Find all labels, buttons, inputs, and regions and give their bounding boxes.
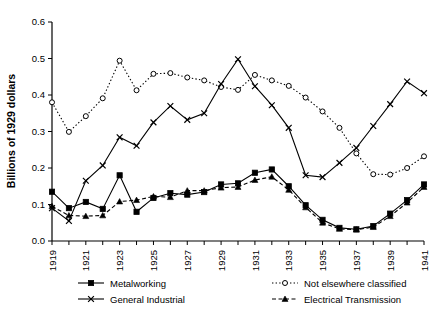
data-point-marker [235,181,240,186]
x-tick-label: 1921 [80,250,91,271]
data-point-marker [100,206,105,211]
data-point-marker [421,182,426,187]
data-point-marker [354,151,359,156]
line-chart: Billions of 1929 dollars 0.00.10.20.30.4… [0,0,437,315]
data-point-marker [388,172,393,177]
x-tick-label: 1919 [47,250,58,271]
data-point-marker [286,83,291,88]
data-point-marker [236,87,241,92]
data-point-marker [83,114,88,119]
data-point-marker [422,154,427,159]
data-point-marker [337,225,342,230]
data-point-marker [286,184,291,189]
data-point-marker [151,71,156,76]
x-tick-label: 1935 [317,250,328,271]
data-point-marker [371,223,376,228]
data-point-marker [337,125,342,130]
y-tick-label: 0.6 [32,16,45,27]
data-point-marker [134,209,139,214]
data-point-marker [269,167,274,172]
legend-label: General Industrial [110,294,185,305]
data-point-marker [66,206,71,211]
data-point-marker [269,78,274,83]
data-point-marker [151,195,156,200]
data-point-marker [218,182,223,187]
data-point-marker [354,227,359,232]
data-point-marker [50,100,55,105]
x-tick-label: 1939 [385,250,396,271]
data-point-marker [303,203,308,208]
data-point-marker [168,71,173,76]
data-point-marker [88,280,93,285]
legend-label: Metalworking [110,278,166,289]
legend-label: Electrical Transmission [304,294,401,305]
data-point-marker [134,88,139,93]
y-tick-label: 0.3 [32,126,45,137]
data-point-marker [117,173,122,178]
data-point-marker [49,189,54,194]
data-point-marker [404,198,409,203]
data-point-marker [100,96,105,101]
data-point-marker [405,166,410,171]
data-point-marker [303,95,308,100]
data-point-marker [320,217,325,222]
y-tick-label: 0.4 [32,89,45,100]
y-tick-label: 0.2 [32,162,45,173]
data-point-marker [117,58,122,63]
data-point-marker [168,191,173,196]
chart-container: Billions of 1929 dollars 0.00.10.20.30.4… [0,0,437,315]
x-tick-label: 1929 [216,250,227,271]
data-point-marker [83,199,88,204]
data-point-marker [388,211,393,216]
x-tick-label: 1927 [182,250,193,271]
data-point-marker [185,75,190,80]
legend-label: Not elsewhere classified [304,278,406,289]
data-point-marker [252,72,257,77]
x-tick-label: 1941 [419,250,430,271]
data-point-marker [320,109,325,114]
data-point-marker [185,192,190,197]
y-axis-title: Billions of 1929 dollars [5,74,17,189]
x-tick-label: 1923 [114,250,125,271]
data-point-marker [202,78,207,83]
y-tick-label: 0.1 [32,199,45,210]
data-point-marker [66,129,71,134]
x-tick-label: 1937 [351,250,362,271]
data-point-marker [202,189,207,194]
x-tick-label: 1933 [283,250,294,271]
x-tick-label: 1931 [250,250,261,271]
data-point-marker [371,172,376,177]
y-tick-label: 0.0 [32,235,45,246]
data-point-marker [283,281,288,286]
x-tick-label: 1925 [148,250,159,271]
y-tick-label: 0.5 [32,53,45,64]
data-point-marker [252,170,257,175]
